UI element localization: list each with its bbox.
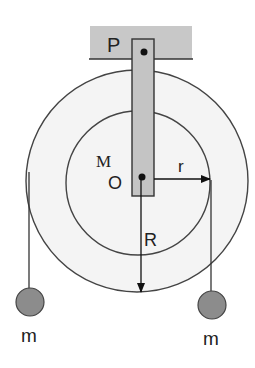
label-left-mass: m [21, 325, 37, 346]
label-m-disc: M [96, 152, 111, 171]
label-right-mass: m [203, 328, 219, 349]
center-o-dot [139, 174, 146, 181]
label-o: O [108, 173, 122, 193]
label-p: P [107, 34, 120, 56]
pivot-p-dot [141, 49, 148, 56]
suspension-rod [132, 39, 154, 196]
label-r-inner: r [178, 157, 184, 176]
left-mass [16, 288, 44, 316]
label-r-outer: R [144, 230, 157, 250]
right-mass [198, 291, 226, 319]
pulley-diagram: P M O r R m m [0, 0, 255, 368]
